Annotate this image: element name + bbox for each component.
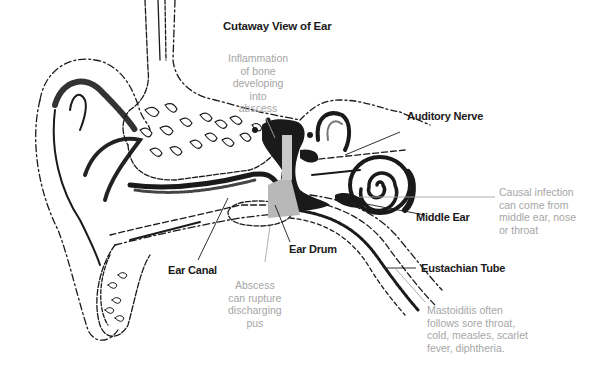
- note-abscess-rupture: Abscess can rupture discharging pus: [228, 279, 282, 329]
- ear-diagram: Cutaway View of Ear Inflammation of bone…: [0, 0, 601, 372]
- label-middle-ear: Middle Ear: [416, 211, 470, 223]
- label-ear-canal: Ear Canal: [168, 264, 217, 276]
- note-causal-infection: Causal infection can come from middle ea…: [499, 186, 576, 236]
- label-auditory-nerve: Auditory Nerve: [407, 110, 483, 122]
- diagram-title: Cutaway View of Ear: [223, 20, 331, 32]
- label-eustachian-tube: Eustachian Tube: [421, 262, 505, 274]
- label-ear-drum: Ear Drum: [289, 243, 337, 255]
- note-inflammation: Inflammation of bone developing into abs…: [228, 52, 288, 115]
- note-mastoiditis: Mastoiditis often follows sore throat, c…: [427, 304, 528, 354]
